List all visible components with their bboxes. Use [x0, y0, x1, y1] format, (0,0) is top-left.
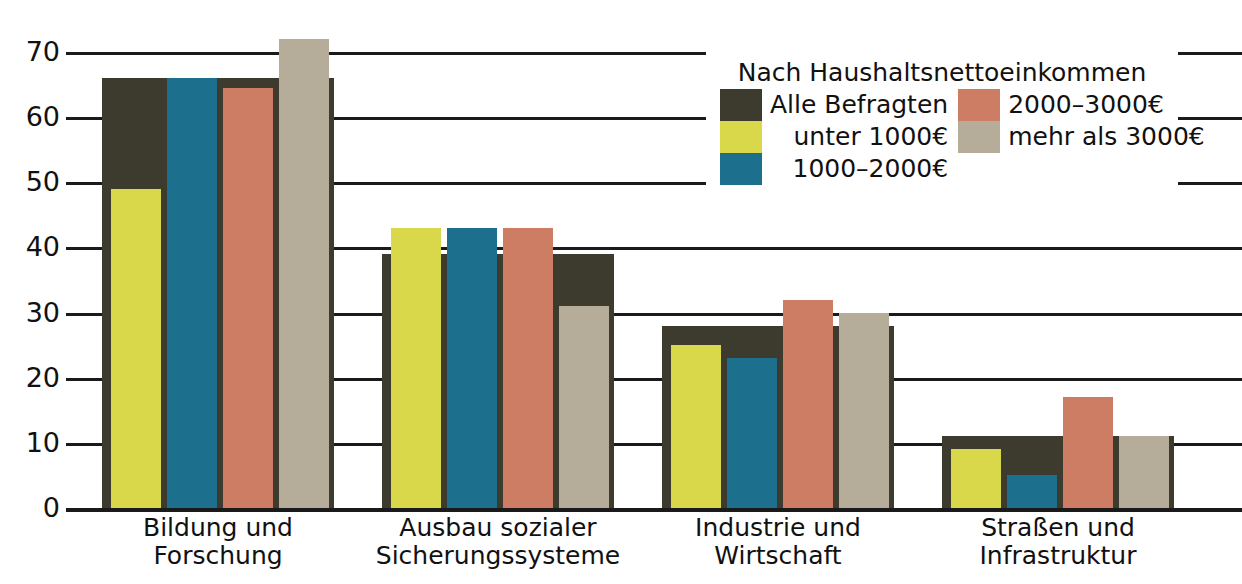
legend-swatch-c2-0 [958, 89, 1000, 121]
legend-swatches-column-1 [720, 89, 762, 185]
y-tick-label-70: 70 [0, 38, 60, 65]
category-label: Straßen und Infrastruktur [882, 514, 1234, 570]
chart-legend: Nach Haushaltsnettoeinkommen Alle Befrag… [706, 52, 1178, 189]
gridline-0 [66, 508, 1242, 512]
y-tick-label-60: 60 [0, 103, 60, 130]
bar-group [102, 52, 334, 508]
bar-series-1 [671, 345, 721, 508]
legend-swatches-column-2 [958, 89, 1000, 185]
legend-columns: Alle Befragtenunter 1000€1000–2000€ 2000… [706, 89, 1178, 185]
legend-labels-column-2: 2000–3000€mehr als 3000€ [1000, 89, 1213, 185]
legend-column-2: 2000–3000€mehr als 3000€ [958, 89, 1213, 185]
bar-series-3 [503, 228, 553, 508]
legend-swatch-c1-0 [720, 89, 762, 121]
bar-series-3 [223, 88, 273, 508]
bar-series-1 [111, 189, 161, 508]
y-tick-label-40: 40 [0, 233, 60, 260]
bar-series-4 [279, 39, 329, 508]
bar-series-4 [1119, 436, 1169, 508]
legend-label-c2-1: mehr als 3000€ [1000, 121, 1213, 153]
bar-series-3 [1063, 397, 1113, 508]
y-tick-label-20: 20 [0, 364, 60, 391]
legend-label-c2-0: 2000–3000€ [1000, 89, 1213, 121]
bar-series-3 [783, 300, 833, 508]
bar-series-1 [951, 449, 1001, 508]
legend-label-c1-2: 1000–2000€ [762, 153, 956, 185]
y-tick-label-50: 50 [0, 168, 60, 195]
bar-chart: 010203040506070 Bildung und ForschungAus… [0, 0, 1242, 584]
bar-series-2 [727, 358, 777, 508]
legend-label-c1-0: Alle Befragten [762, 89, 956, 121]
legend-label-c1-1: unter 1000€ [762, 121, 956, 153]
legend-swatch-c1-2 [720, 153, 762, 185]
y-tick-label-10: 10 [0, 429, 60, 456]
legend-swatch-c1-1 [720, 121, 762, 153]
bar-group [382, 52, 614, 508]
legend-labels-column-1: Alle Befragtenunter 1000€1000–2000€ [762, 89, 956, 185]
bar-series-4 [839, 313, 889, 508]
bar-series-2 [1007, 475, 1057, 508]
legend-title: Nach Haushaltsnettoeinkommen [706, 58, 1178, 89]
legend-column-1: Alle Befragtenunter 1000€1000–2000€ [720, 89, 956, 185]
bar-series-4 [559, 306, 609, 508]
legend-swatch-c2-1 [958, 121, 1000, 153]
y-tick-label-30: 30 [0, 299, 60, 326]
bar-series-2 [447, 228, 497, 508]
bar-series-1 [391, 228, 441, 508]
bar-series-2 [167, 78, 217, 508]
